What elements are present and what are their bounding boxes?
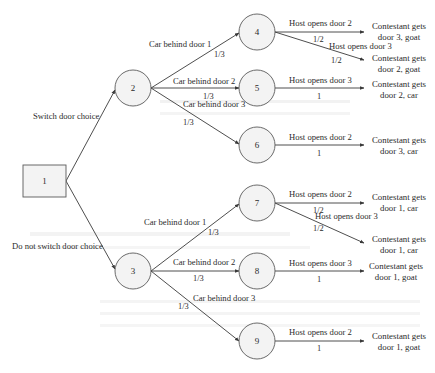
edge-switch xyxy=(66,90,115,181)
edge-no-switch xyxy=(66,181,115,269)
node-8-label: 8 xyxy=(255,266,260,276)
node-7: 7 xyxy=(239,185,275,221)
outcome-4a: Contestant gets door 3, goat xyxy=(372,21,427,42)
edge-2-4-prob: 1/3 xyxy=(214,50,225,59)
edge-2-6-label: Car behind door 3 xyxy=(183,99,245,109)
edge-8-label: Host opens door 3 xyxy=(289,258,352,268)
outcome-5-line2: door 2, car xyxy=(380,90,418,100)
outcome-6: Contestant gets door 3, car xyxy=(372,135,427,156)
outcome-7a: Contestant gets door 1, car xyxy=(372,192,427,213)
node-4: 4 xyxy=(239,14,275,50)
edge-3-9-prob: 1/3 xyxy=(178,302,189,311)
outcome-5-line1: Contestant gets xyxy=(372,79,427,89)
outcome-8-line1: Contestant gets xyxy=(369,261,424,271)
edge-7b-label: Host opens door 3 xyxy=(315,211,378,221)
node-8: 8 xyxy=(239,253,275,289)
node-3: 3 xyxy=(115,253,151,289)
outcome-4b-line2: door 2, goat xyxy=(378,64,421,74)
edge-2-5-label: Car behind door 2 xyxy=(173,76,235,86)
edge-3-9-label: Car behind door 3 xyxy=(193,293,255,303)
edge-3-8-prob: 1/3 xyxy=(193,274,204,283)
outcome-7a-line1: Contestant gets xyxy=(372,192,427,202)
diagram-svg: 1 2 3 4 5 6 7 8 9 Switch door choice Do … xyxy=(0,0,435,373)
edge-2-4-label: Car behind door 1 xyxy=(149,39,211,49)
node-9: 9 xyxy=(239,323,275,359)
node-1: 1 xyxy=(23,165,66,197)
edge-3-8-label: Car behind door 2 xyxy=(173,257,235,267)
node-3-label: 3 xyxy=(131,266,136,276)
outcome-7b-line1: Contestant gets xyxy=(372,234,427,244)
outcome-6-line1: Contestant gets xyxy=(372,135,427,145)
node-7-label: 7 xyxy=(255,198,260,208)
node-6-label: 6 xyxy=(255,140,260,150)
edge-4b-prob: 1/2 xyxy=(331,56,342,65)
outcome-9-line2: door 1, goat xyxy=(378,342,421,352)
edge-4a-label: Host opens door 2 xyxy=(289,18,352,28)
edge-4a-prob: 1/2 xyxy=(313,35,324,44)
outcome-7b: Contestant gets door 1, car xyxy=(372,234,427,255)
edge-5-prob: 1 xyxy=(317,92,321,101)
edge-6-label: Host opens door 2 xyxy=(289,132,352,142)
edge-4b-label: Host opens door 3 xyxy=(329,41,392,51)
switch-label: Switch door choice xyxy=(33,111,100,121)
edge-7a-label: Host opens door 2 xyxy=(289,189,352,199)
node-5-label: 5 xyxy=(255,83,260,93)
node-2: 2 xyxy=(115,70,151,106)
outcome-4b: Contestant gets door 2, goat xyxy=(372,53,427,74)
edge-9-prob: 1 xyxy=(317,344,321,353)
outcome-5: Contestant gets door 2, car xyxy=(372,79,427,100)
outcome-7b-line2: door 1, car xyxy=(380,245,418,255)
outcome-4a-line2: door 3, goat xyxy=(378,32,421,42)
node-2-label: 2 xyxy=(131,83,136,93)
outcome-9-line1: Contestant gets xyxy=(372,331,427,341)
edge-3-7-prob: 1/3 xyxy=(208,228,219,237)
edge-2-6-prob: 1/3 xyxy=(183,118,194,127)
edge-7b-prob: 1/2 xyxy=(313,224,324,233)
edge-5-label: Host opens door 3 xyxy=(289,75,352,85)
outcome-6-line2: door 3, car xyxy=(380,146,418,156)
node-9-label: 9 xyxy=(255,336,260,346)
outcome-4b-line1: Contestant gets xyxy=(372,53,427,63)
node-6: 6 xyxy=(239,127,275,163)
decision-tree-diagram: 1 2 3 4 5 6 7 8 9 Switch door choice Do … xyxy=(0,0,435,373)
chance-edges-node2 xyxy=(151,33,239,144)
outcome-9: Contestant gets door 1, goat xyxy=(372,331,427,352)
edge-3-7-label: Car behind door 1 xyxy=(144,217,206,227)
edge-8-prob: 1 xyxy=(317,275,321,284)
outcome-4a-line1: Contestant gets xyxy=(372,21,427,31)
edge-2-6 xyxy=(151,88,239,144)
edge-6-prob: 1 xyxy=(317,149,321,158)
node-1-label: 1 xyxy=(42,176,47,186)
no-switch-label: Do not switch door choice xyxy=(12,241,103,251)
outcome-8: Contestant gets door 1, goat xyxy=(369,261,424,282)
outcome-8-line2: door 1, goat xyxy=(375,272,418,282)
outcome-7a-line2: door 1, car xyxy=(380,203,418,213)
node-4-label: 4 xyxy=(255,27,260,37)
edge-9-label: Host opens door 2 xyxy=(289,327,352,337)
